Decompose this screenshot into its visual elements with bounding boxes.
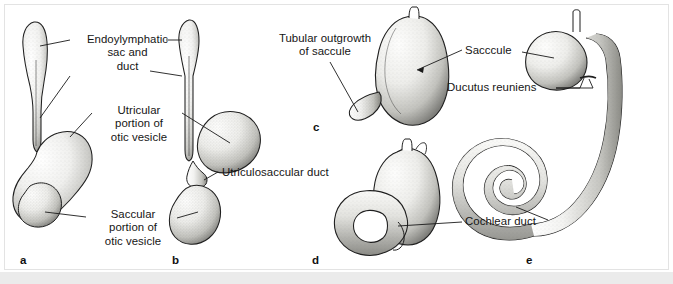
- label-cochlear-duct: Cochlear duct: [465, 215, 555, 228]
- label-sacccule: Sacccule: [465, 44, 525, 57]
- label-utriculosaccular-duct: Utriculosaccular duct: [222, 166, 362, 179]
- label-endolymphatic-sac-and-duct: Endoylymphatic sac and duct: [75, 33, 180, 73]
- label-utricular-portion-of-otic-vesicle: Utricular portion of otic vesicle: [96, 104, 182, 144]
- panel-letter-a: a: [20, 254, 26, 266]
- illustration-plate: Endoylymphatic sac and duct Utricular po…: [0, 0, 673, 284]
- panel-letter-e: e: [526, 254, 532, 266]
- panel-letter-d: d: [312, 254, 319, 266]
- panel-letter-b: b: [172, 254, 179, 266]
- label-ducutus-reuniens: Ducutus reuniens: [447, 81, 557, 94]
- panel-letter-c: c: [313, 121, 319, 133]
- label-tubular-outgrowth-of-saccule: Tubular outgrowth of saccule: [266, 32, 384, 59]
- panel-c-drawing: [349, 7, 448, 125]
- label-saccular-portion-of-otic-vesicle: Saccular portion of otic vesicle: [90, 208, 176, 248]
- anatomical-figure-plate: Endoylymphatic sac and duct Utricular po…: [0, 0, 673, 284]
- panel-b-drawing: [169, 20, 260, 244]
- panel-d-drawing: [334, 139, 439, 255]
